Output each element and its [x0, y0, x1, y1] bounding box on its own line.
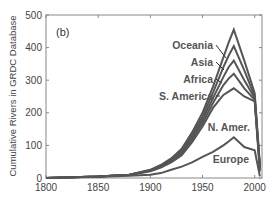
- y-axis-label: Cumulative Rivers in GRDC Database: [7, 15, 18, 176]
- x-tick-label: 1800: [35, 182, 58, 193]
- series-label-europe: Europe: [213, 153, 249, 165]
- series-labels: OceaniaAsiaAfricaS. AmericaN. Amer.Europ…: [159, 39, 250, 165]
- y-tick-label: 100: [25, 140, 42, 151]
- series-label-africa: Africa: [183, 73, 213, 85]
- series-label-oceania: Oceania: [172, 39, 213, 51]
- x-tick-label: 1850: [87, 182, 110, 193]
- y-tick-label: 500: [25, 10, 42, 21]
- panel-label: (b): [56, 26, 69, 38]
- x-tick-label: 2000: [244, 182, 267, 193]
- x-tick-label: 1950: [191, 182, 214, 193]
- river-count-chart: 010020030040050018001850190019502000 Oce…: [0, 0, 274, 201]
- series-label-n-amer-: N. Amer.: [208, 121, 250, 133]
- y-tick-label: 300: [25, 75, 42, 86]
- series-label-s-america: S. America: [159, 90, 213, 102]
- series-label-asia: Asia: [191, 56, 213, 68]
- x-tick-label: 1900: [139, 182, 162, 193]
- y-tick-label: 400: [25, 42, 42, 53]
- y-tick-label: 200: [25, 107, 42, 118]
